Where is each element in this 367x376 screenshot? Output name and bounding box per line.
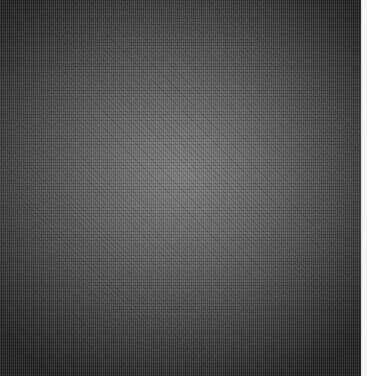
noise-overlay: [0, 0, 361, 376]
gray-textured-background: [0, 0, 361, 376]
right-edge-strip: [361, 0, 367, 376]
